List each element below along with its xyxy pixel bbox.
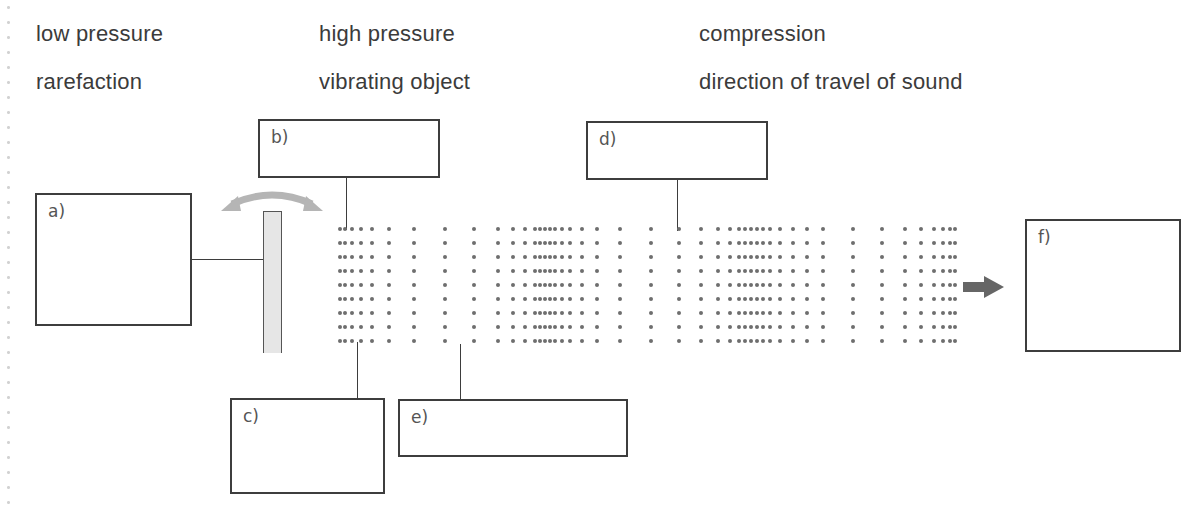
particle-dot xyxy=(768,311,772,315)
particle-dot xyxy=(338,269,342,273)
particle-dot xyxy=(716,297,720,301)
particle-dot xyxy=(496,241,500,245)
particle-dot xyxy=(778,325,782,329)
particle-dot xyxy=(343,325,347,329)
particle-dot xyxy=(903,339,907,343)
particle-dot xyxy=(387,269,391,273)
particle-dot xyxy=(580,255,584,259)
particle-dot xyxy=(649,311,653,315)
particle-dot xyxy=(359,311,363,315)
particle-dot xyxy=(568,227,572,231)
particle-dot xyxy=(768,297,772,301)
particle-dot xyxy=(568,311,572,315)
particle-dot xyxy=(548,241,552,245)
particle-dot xyxy=(496,227,500,231)
particle-dot xyxy=(538,339,542,343)
particle-dot xyxy=(941,227,945,231)
particle-dot xyxy=(941,255,945,259)
particle-dot xyxy=(370,269,374,273)
particle-dot xyxy=(805,283,809,287)
particle-dot xyxy=(791,297,795,301)
particle-dot xyxy=(350,297,354,301)
particle-dot xyxy=(359,269,363,273)
particle-dot xyxy=(533,283,537,287)
particle-dot xyxy=(560,325,564,329)
particle-dot xyxy=(778,255,782,259)
particle-dot xyxy=(370,325,374,329)
particle-dot xyxy=(343,269,347,273)
particle-dot xyxy=(538,311,542,315)
particle-dot xyxy=(755,283,759,287)
particle-dot xyxy=(543,325,547,329)
particle-dot xyxy=(768,255,772,259)
particle-dot xyxy=(580,325,584,329)
particle-dot xyxy=(791,227,795,231)
particle-dot xyxy=(880,311,884,315)
answer-box-f[interactable]: f) xyxy=(1025,219,1181,352)
particle-dot xyxy=(649,255,653,259)
particle-dot xyxy=(919,255,923,259)
particle-dot xyxy=(511,255,515,259)
particle-dot xyxy=(538,255,542,259)
particle-dot xyxy=(543,283,547,287)
particle-dot xyxy=(533,255,537,259)
answer-box-c[interactable]: c) xyxy=(230,398,385,494)
particle-dot xyxy=(412,297,416,301)
answer-box-d[interactable]: d) xyxy=(586,121,768,180)
particle-dot xyxy=(560,227,564,231)
answer-box-e[interactable]: e) xyxy=(398,399,628,457)
particle-dot xyxy=(568,255,572,259)
particle-dot xyxy=(805,311,809,315)
particle-dot xyxy=(749,311,753,315)
particle-dot xyxy=(538,283,542,287)
particle-dot xyxy=(511,339,515,343)
particle-dot xyxy=(791,339,795,343)
particle-dot xyxy=(953,311,957,315)
particle-dot xyxy=(359,283,363,287)
particle-dot xyxy=(768,325,772,329)
particle-dot xyxy=(821,241,825,245)
particle-dot xyxy=(903,241,907,245)
particle-dot xyxy=(560,241,564,245)
particle-dot xyxy=(553,269,557,273)
particle-dot xyxy=(538,269,542,273)
box-label-e: e) xyxy=(411,407,428,427)
particle-dot xyxy=(568,241,572,245)
particle-dot xyxy=(880,325,884,329)
particle-dot xyxy=(755,241,759,245)
particle-dot xyxy=(543,269,547,273)
particle-dot xyxy=(716,255,720,259)
particle-dot xyxy=(595,311,599,315)
particle-dot xyxy=(851,311,855,315)
particle-dot xyxy=(649,227,653,231)
particle-dot xyxy=(338,241,342,245)
particle-dot xyxy=(716,283,720,287)
particle-dot xyxy=(761,283,765,287)
particle-dot xyxy=(472,339,476,343)
particle-dot xyxy=(932,311,936,315)
particle-dot xyxy=(443,241,447,245)
particle-dot xyxy=(761,311,765,315)
particle-dot xyxy=(919,297,923,301)
particle-dot xyxy=(343,241,347,245)
particle-dot xyxy=(548,325,552,329)
particle-dot xyxy=(523,311,527,315)
particle-dot xyxy=(805,241,809,245)
particle-dot xyxy=(387,297,391,301)
answer-box-a[interactable]: a) xyxy=(35,193,192,326)
particle-dot xyxy=(919,227,923,231)
particle-dot xyxy=(716,311,720,315)
box-label-f: f) xyxy=(1038,227,1051,247)
particle-dot xyxy=(716,325,720,329)
particle-dot xyxy=(548,339,552,343)
particle-dot xyxy=(677,339,681,343)
particle-dot xyxy=(761,339,765,343)
particle-dot xyxy=(523,241,527,245)
particle-dot xyxy=(387,325,391,329)
particle-dot xyxy=(743,283,747,287)
box-label-c: c) xyxy=(243,406,259,426)
particle-dot xyxy=(412,283,416,287)
answer-box-b[interactable]: b) xyxy=(258,119,440,178)
particle-dot xyxy=(359,325,363,329)
particle-dot xyxy=(338,283,342,287)
